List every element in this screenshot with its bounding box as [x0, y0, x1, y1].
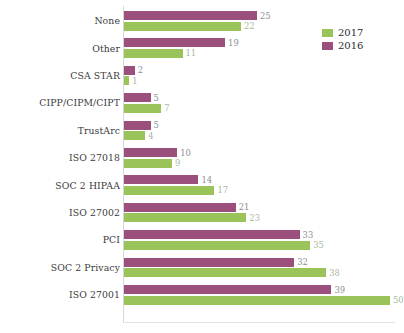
legend-label-2016: 2016	[338, 41, 363, 51]
bar-2017[interactable]	[124, 159, 172, 168]
category-axis-label: CIPP/CIPM/CIPT	[2, 98, 120, 107]
bar-2016[interactable]	[124, 66, 135, 75]
bar-value-label: 9	[172, 159, 180, 167]
bar-2016[interactable]	[124, 38, 225, 47]
bar-2016[interactable]	[124, 203, 236, 212]
bar-value-label: 11	[183, 49, 197, 57]
bar-value-label: 7	[161, 104, 169, 112]
bar-2017[interactable]	[124, 268, 326, 277]
category-axis-label: TrustArc	[2, 126, 120, 135]
bar-value-label: 1	[129, 77, 137, 85]
bar-value-label: 25	[257, 11, 271, 19]
category-axis-label: SOC 2 Privacy	[2, 263, 120, 272]
bar-value-label: 5	[151, 93, 159, 101]
bar-2017[interactable]	[124, 131, 145, 140]
bar-2017[interactable]	[124, 296, 390, 305]
legend-item-2017[interactable]: 2017	[322, 27, 363, 38]
bar-2016[interactable]	[124, 258, 294, 267]
legend-item-2016[interactable]: 2016	[322, 40, 363, 51]
bar-value-label: 35	[310, 241, 324, 249]
bar-value-label: 39	[331, 285, 345, 293]
category-axis-line	[123, 6, 124, 322]
bar-value-label: 2	[135, 66, 143, 74]
bar-2017[interactable]	[124, 241, 310, 250]
category-axis-label: Other	[2, 44, 120, 53]
category-axis-label: ISO 27001	[2, 290, 120, 299]
bar-2016[interactable]	[124, 285, 331, 294]
bar-2016[interactable]	[124, 121, 151, 130]
bar-2017[interactable]	[124, 104, 161, 113]
category-axis-label: SOC 2 HIPAA	[2, 181, 120, 190]
bar-value-label: 10	[177, 148, 191, 156]
value-axis-baseline	[123, 322, 395, 323]
category-axis-label: ISO 27018	[2, 153, 120, 162]
bar-value-label: 38	[326, 268, 340, 276]
bar-2017[interactable]	[124, 186, 214, 195]
bar-2016[interactable]	[124, 230, 300, 239]
bar-value-label: 19	[225, 39, 239, 47]
bar-2017[interactable]	[124, 49, 183, 58]
legend-swatch-2017-icon	[322, 29, 333, 37]
bar-value-label: 17	[214, 186, 228, 194]
category-axis-label: CSA STAR	[2, 71, 120, 80]
bar-2016[interactable]	[124, 175, 198, 184]
legend: 2017 2016	[322, 27, 363, 51]
bar-value-label: 22	[241, 22, 255, 30]
bar-2017[interactable]	[124, 213, 246, 222]
bar-2016[interactable]	[124, 11, 257, 20]
bar-2017[interactable]	[124, 22, 241, 31]
bar-2016[interactable]	[124, 148, 177, 157]
bar-value-label: 23	[246, 214, 260, 222]
bar-value-label: 50	[390, 296, 404, 304]
bar-2016[interactable]	[124, 93, 151, 102]
legend-label-2017: 2017	[338, 28, 363, 38]
bar-value-label: 4	[145, 131, 153, 139]
category-axis-label: None	[2, 16, 120, 25]
bar-value-label: 5	[151, 121, 159, 129]
bar-value-label: 14	[198, 176, 212, 184]
bar-value-label: 33	[300, 230, 314, 238]
bar-value-label: 32	[294, 258, 308, 266]
category-axis-label: ISO 27002	[2, 208, 120, 217]
legend-swatch-2016-icon	[322, 42, 333, 50]
bar-value-label: 21	[236, 203, 250, 211]
category-axis-label: PCI	[2, 235, 120, 244]
